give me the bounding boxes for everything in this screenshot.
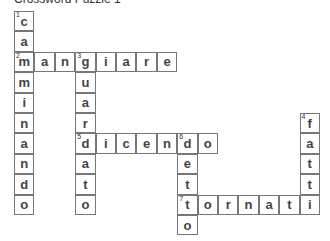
crossword-cell[interactable]: o	[198, 195, 218, 215]
crossword-cell[interactable]: a	[75, 93, 95, 113]
cell-letter: f	[308, 116, 312, 131]
crossword-cell[interactable]: r	[75, 113, 95, 133]
cell-letter: c	[21, 14, 28, 29]
cell-letter: d	[183, 136, 191, 151]
crossword-cell[interactable]: a	[259, 195, 279, 215]
cell-letter: i	[22, 95, 26, 110]
cell-letter: t	[308, 156, 312, 171]
cell-letter: t	[287, 197, 291, 212]
cell-letter: r	[83, 116, 88, 131]
crossword-cell[interactable]: 6d	[177, 133, 197, 153]
cell-letter: o	[81, 197, 89, 212]
cell-letter: r	[144, 54, 149, 69]
cell-letter: n	[163, 136, 171, 151]
crossword-cell[interactable]: 5d	[75, 133, 95, 153]
crossword-cell[interactable]: t	[300, 174, 320, 194]
clue-number: 2	[16, 52, 20, 59]
crossword-cell[interactable]: e	[177, 154, 197, 174]
clue-number: 1	[16, 11, 20, 18]
crossword-cell[interactable]: n	[55, 52, 75, 72]
crossword-cell[interactable]: t	[177, 174, 197, 194]
cell-letter: d	[20, 177, 28, 192]
cell-letter: a	[265, 197, 272, 212]
crossword-cell[interactable]: t	[300, 154, 320, 174]
puzzle-title: Crossword Puzzle 1	[14, 0, 121, 6]
cell-letter: t	[185, 177, 189, 192]
cell-letter: o	[183, 218, 191, 233]
crossword-cell[interactable]: i	[300, 195, 320, 215]
crossword-cell[interactable]: i	[96, 52, 116, 72]
cell-letter: i	[104, 54, 108, 69]
crossword-cell[interactable]: e	[157, 52, 177, 72]
cell-letter: g	[81, 54, 89, 69]
crossword-cell[interactable]: r	[218, 195, 238, 215]
crossword-cell[interactable]: o	[14, 195, 34, 215]
cell-letter: a	[123, 54, 130, 69]
crossword-cell[interactable]: a	[300, 133, 320, 153]
crossword-cell[interactable]: 4f	[300, 113, 320, 133]
crossword-cell[interactable]: n	[14, 113, 34, 133]
crossword-cell[interactable]: o	[198, 133, 218, 153]
cell-letter: n	[245, 197, 253, 212]
cell-letter: e	[163, 54, 170, 69]
crossword-cell[interactable]: a	[116, 52, 136, 72]
cell-letter: n	[20, 156, 28, 171]
cell-letter: i	[104, 136, 108, 151]
crossword-cell[interactable]: 2m	[14, 52, 34, 72]
crossword-cell[interactable]: a	[14, 133, 34, 153]
cell-letter: e	[143, 136, 150, 151]
crossword-cell[interactable]: u	[75, 72, 95, 92]
crossword-cell[interactable]: o	[177, 215, 197, 235]
cell-letter: t	[308, 177, 312, 192]
cell-letter: d	[81, 136, 89, 151]
crossword-cell[interactable]: a	[14, 31, 34, 51]
crossword-cell[interactable]: r	[136, 52, 156, 72]
cell-letter: t	[83, 177, 87, 192]
cell-letter: r	[226, 197, 231, 212]
crossword-cell[interactable]: t	[279, 195, 299, 215]
clue-number: 6	[179, 133, 183, 140]
cell-letter: n	[61, 54, 69, 69]
cell-letter: m	[18, 75, 30, 90]
cell-letter: a	[21, 34, 28, 49]
cell-letter: a	[41, 54, 48, 69]
crossword-cell[interactable]: a	[75, 154, 95, 174]
crossword-cell[interactable]: n	[238, 195, 258, 215]
cell-letter: a	[82, 156, 89, 171]
cell-letter: e	[184, 156, 191, 171]
crossword-cell[interactable]: 3g	[75, 52, 95, 72]
crossword-cell[interactable]: t	[75, 174, 95, 194]
clue-number: 3	[77, 52, 81, 59]
crossword-cell[interactable]: i	[96, 133, 116, 153]
crossword-cell[interactable]: i	[14, 93, 34, 113]
crossword-cell[interactable]: o	[75, 195, 95, 215]
clue-number: 5	[77, 133, 81, 140]
cell-letter: o	[204, 136, 212, 151]
cell-letter: c	[123, 136, 130, 151]
crossword-cell[interactable]: 7t	[177, 195, 197, 215]
cell-letter: i	[308, 197, 312, 212]
cell-letter: n	[20, 116, 28, 131]
clue-number: 4	[302, 113, 306, 120]
cell-letter: o	[20, 197, 28, 212]
crossword-cell[interactable]: c	[116, 133, 136, 153]
crossword-cell[interactable]: d	[14, 174, 34, 194]
cell-letter: a	[21, 136, 28, 151]
cell-letter: t	[185, 197, 189, 212]
cell-letter: o	[204, 197, 212, 212]
crossword-cell[interactable]: a	[34, 52, 54, 72]
clue-number: 7	[179, 195, 183, 202]
crossword-cell[interactable]: 1c	[14, 11, 34, 31]
crossword-cell[interactable]: n	[157, 133, 177, 153]
crossword-cell[interactable]: n	[14, 154, 34, 174]
crossword-cell[interactable]: m	[14, 72, 34, 92]
crossword-cell[interactable]: e	[136, 133, 156, 153]
cell-letter: a	[82, 95, 89, 110]
cell-letter: m	[18, 54, 30, 69]
cell-letter: u	[81, 75, 89, 90]
cell-letter: a	[306, 136, 313, 151]
